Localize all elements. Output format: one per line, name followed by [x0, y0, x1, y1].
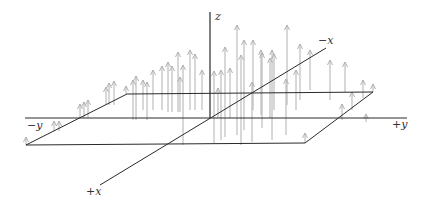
- x-axis: [100, 48, 326, 185]
- neg-y-axis-label: −y: [27, 120, 42, 131]
- diagram-canvas: [0, 0, 426, 207]
- neg-x-axis-label: −x: [318, 35, 333, 46]
- pos-y-axis-label: +y: [392, 119, 407, 130]
- pos-x-axis-label: +x: [86, 186, 101, 197]
- z-axis-label: z: [215, 11, 221, 22]
- vector-field-diagram: z −x +x −y +y: [0, 0, 426, 207]
